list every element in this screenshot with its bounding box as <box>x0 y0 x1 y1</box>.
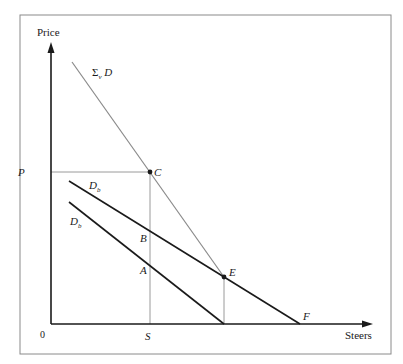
y-axis-arrow-icon <box>48 42 55 53</box>
point-c-label: C <box>154 166 162 178</box>
point-e-dot <box>222 275 227 280</box>
x-axis-label: Steers <box>345 329 372 341</box>
sum-demand-curve <box>72 62 224 277</box>
y-axis-label: Price <box>37 26 60 38</box>
x-axis-arrow-icon <box>362 321 373 328</box>
demand-b-lower-sub: b <box>78 222 82 230</box>
demand-b-upper-curve <box>69 181 300 324</box>
price-p-label: P <box>17 166 25 178</box>
point-f-label: F <box>302 310 310 322</box>
demand-b-upper-label: Db <box>88 179 101 194</box>
quantity-s-label: S <box>145 330 151 342</box>
point-a-label: A <box>139 264 147 276</box>
demand-b-upper-d: D <box>88 179 97 191</box>
point-c-dot <box>148 170 153 175</box>
economics-diagram: Price Steers 0 P S Σv D Db Db C E B A F <box>0 0 403 364</box>
point-e-label: E <box>228 266 236 278</box>
point-b-label: B <box>140 232 147 244</box>
sum-demand-d: D <box>102 66 113 78</box>
sum-demand-label: Σv D <box>92 66 112 81</box>
demand-b-lower-label: Db <box>69 215 82 230</box>
demand-b-upper-sub: b <box>97 186 101 194</box>
origin-label: 0 <box>40 329 45 340</box>
demand-b-lower-d: D <box>69 215 78 227</box>
